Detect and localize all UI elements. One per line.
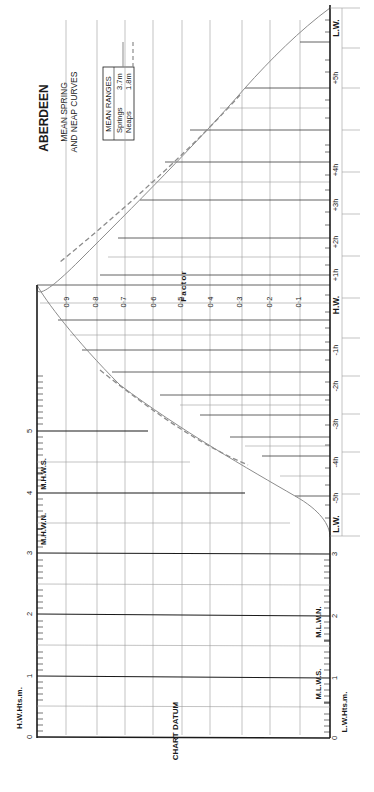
title-block: ABERDEEN MEAN SPRING AND NEAP CURVES: [37, 71, 79, 152]
factor-grid: [66, 20, 300, 735]
label-plus5h: +5h: [331, 72, 340, 85]
mhwn-marker: M.H.W.N.: [37, 513, 48, 545]
lw-tick-2: 2: [330, 614, 339, 618]
mhws-label: M.H.W.S.: [39, 458, 48, 490]
mlws-label: M.L.W.S.: [314, 669, 323, 700]
label-minus2h: -2h: [331, 381, 340, 392]
lw-height-tick-labels: 3 2 1 0: [330, 552, 339, 740]
factor-0.6: 0·6: [149, 297, 158, 308]
subtitle-line1: MEAN SPRING: [59, 82, 69, 142]
lw-tick-1: 1: [330, 676, 339, 680]
hw-tick-5: 5: [25, 429, 34, 433]
factor-0.9: 0·9: [62, 297, 71, 308]
hw-tick-4: 4: [25, 491, 34, 495]
legend-neaps-label: Neaps: [124, 111, 133, 133]
label-minus4h: -4h: [331, 457, 340, 468]
factor-0.8: 0·8: [91, 297, 100, 308]
mlwn-marker: M.L.W.N.: [314, 606, 330, 641]
chart-datum-label: CHART DATUM: [171, 701, 180, 760]
mhws-marker: M.H.W.S.: [37, 458, 48, 490]
label-plus1h: +1h: [331, 269, 340, 282]
factor-label: Factor: [179, 270, 188, 302]
label-minus1h: -1h: [331, 345, 340, 356]
label-lw-bottom: L.W.: [331, 515, 341, 532]
label-plus4h: +4h: [331, 164, 340, 177]
chart-datum-line: [37, 737, 330, 738]
subtitle-line2: AND NEAP CURVES: [69, 71, 79, 152]
title: ABERDEEN: [37, 84, 51, 151]
factor-0.1: 0·1: [294, 297, 303, 308]
legend-springs-label: Springs: [115, 107, 124, 133]
label-lw-top: L.W.: [331, 19, 341, 36]
time-labels: L.W. +5h +4h +3h +2h +1h H.W. -1h -2h -3…: [331, 19, 341, 532]
hour-lines: [37, 42, 330, 496]
mlwn-label: M.L.W.N.: [314, 606, 323, 637]
legend: MEAN RANGES Springs 3.7m Neaps 1.8m: [103, 42, 134, 140]
label-minus5h: -5h: [331, 493, 340, 504]
hw-tick-3: 3: [25, 551, 34, 555]
mhwn-label: M.H.W.N.: [39, 513, 48, 545]
hw-height-axis-label: H.W.Hts.m.: [15, 687, 24, 729]
hw-tick-0: 0: [25, 735, 34, 739]
lw-tick-3: 3: [330, 552, 339, 556]
factor-0.4: 0·4: [206, 297, 215, 308]
lw-tick-0: 0: [330, 736, 339, 740]
range-lines: [37, 431, 330, 678]
factor-0.3: 0·3: [235, 297, 244, 308]
label-minus3h: -3h: [331, 419, 340, 430]
label-plus3h: +3h: [331, 199, 340, 212]
hw-tick-2: 2: [25, 612, 34, 616]
mlws-marker: M.L.W.S.: [314, 669, 330, 703]
factor-0.7: 0·7: [119, 297, 128, 308]
label-hw: H.W.: [331, 296, 341, 314]
label-plus2h: +2h: [331, 236, 340, 249]
lw-height-axis-label: L.W.Hts.m.: [340, 692, 349, 733]
legend-heading: MEAN RANGES: [104, 76, 113, 131]
tidal-curve-diagram: ABERDEEN MEAN SPRING AND NEAP CURVES MEA…: [0, 0, 374, 792]
hw-height-tick-labels: 5 4 3 2 1 0: [25, 429, 34, 739]
legend-springs-value: 3.7m: [115, 73, 124, 90]
factor-0.2: 0·2: [265, 297, 274, 308]
hw-tick-1: 1: [25, 674, 34, 678]
legend-neaps-value: 1.8m: [124, 73, 133, 90]
